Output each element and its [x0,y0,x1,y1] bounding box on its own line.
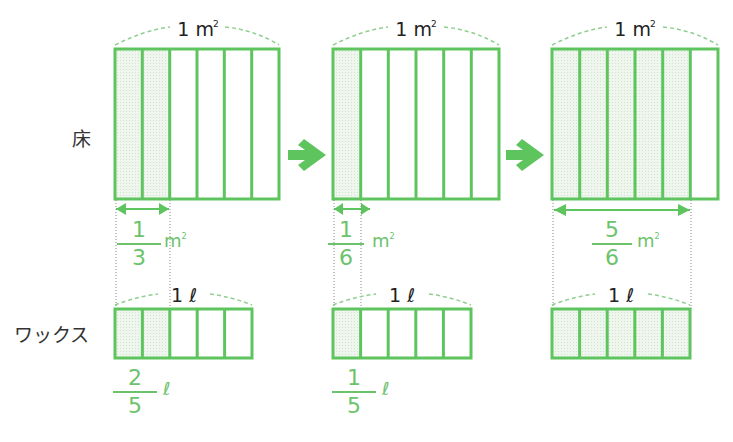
floor-unit-label-2: 1 m2 [390,18,442,40]
floor-panel-3 [552,27,718,309]
wax-fraction-1: 25 [113,366,157,418]
wax-fraction-unit-1: ℓ [163,378,170,399]
wax-unit-label-2: 1 ℓ [378,284,426,306]
wax-row-label: ワックス [14,320,89,347]
floor-unit-label-1: 1 m2 [172,18,224,40]
arrow-right-icon [288,139,326,171]
wax-fraction-2: 15 [332,366,376,418]
floor-unit-label-3: 1 m2 [609,18,661,40]
wax-unit-label-3: 1 ℓ [597,284,645,306]
floor-fraction-2: 16 [328,218,364,270]
arrow-right-icon [506,139,544,171]
wax-unit-label-1: 1 ℓ [160,284,208,306]
floor-row-label: 床 [72,124,91,151]
wax-fraction-unit-2: ℓ [382,378,389,399]
floor-fraction-3: 56 [592,218,632,270]
floor-fraction-1: 13 [117,218,161,270]
floor-fraction-unit-2: m2 [372,230,395,251]
floor-fraction-unit-1: m2 [164,230,187,251]
floor-fraction-unit-3: m2 [637,230,660,251]
